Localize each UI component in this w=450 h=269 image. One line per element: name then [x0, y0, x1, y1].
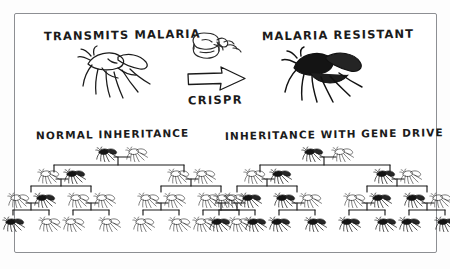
mosquito-filled-icon — [96, 147, 118, 162]
mosquito-outline-icon — [99, 217, 121, 232]
label-transmits-malaria: TRANSMITS MALARIA — [44, 27, 201, 44]
mosquito-filled-icon — [302, 147, 324, 162]
mosquito-filled-icon — [375, 217, 397, 232]
mosquito-outline-icon — [38, 169, 60, 184]
mosquito-filled-icon — [245, 217, 267, 232]
cas9-protein-icon — [188, 31, 244, 64]
mosquito-outline-icon — [138, 193, 160, 208]
mosquito-filled-icon — [435, 217, 450, 232]
mosquito-outline-icon — [332, 147, 354, 162]
mosquito-filled-icon — [374, 169, 396, 184]
mosquito-outline-icon — [198, 193, 220, 208]
mosquito-outline-icon — [39, 217, 61, 232]
label-crispr: CRISPR — [188, 93, 243, 108]
mosquito-filled-icon — [339, 217, 361, 232]
mosquito-filled-icon — [34, 193, 56, 208]
mosquito-filled-icon — [64, 169, 86, 184]
mosquito-outline-icon — [244, 169, 266, 184]
mosquito-outline-icon — [63, 217, 85, 232]
mosquito-outline-icon — [133, 217, 155, 232]
normal-inheritance-tree — [22, 144, 222, 252]
mosquito-filled-icon — [404, 193, 426, 208]
mosquito-outline-icon — [344, 193, 366, 208]
mosquito-outline-icon — [164, 193, 186, 208]
mosquito-filled-icon — [305, 217, 327, 232]
mosquito-outline-icon — [300, 193, 322, 208]
mosquito-outline-icon — [78, 44, 158, 102]
right-arrow-icon — [186, 66, 248, 92]
mosquito-outline-icon — [169, 217, 191, 232]
mosquito-filled-icon — [274, 193, 296, 208]
mosquito-filled-icon — [370, 193, 392, 208]
mosquito-outline-icon — [94, 193, 116, 208]
mosquito-filled-icon — [270, 169, 292, 184]
mosquito-filled-icon — [269, 217, 291, 232]
mosquito-filled-icon — [399, 217, 421, 232]
mosquito-outline-icon — [168, 169, 190, 184]
label-malaria-resistant: MALARIA RESISTANT — [262, 27, 414, 44]
mosquito-outline-icon — [126, 147, 148, 162]
mosquito-outline-icon — [68, 193, 90, 208]
mosquito-outline-icon — [194, 169, 216, 184]
gene-drive-inheritance-tree — [226, 144, 430, 252]
mosquito-filled-icon — [240, 193, 262, 208]
mosquito-outline-icon — [400, 169, 422, 184]
mosquito-filled-icon — [282, 42, 368, 104]
illustration-canvas: TRANSMITS MALARIA MALARIA RESISTANT CRIS… — [0, 0, 450, 269]
